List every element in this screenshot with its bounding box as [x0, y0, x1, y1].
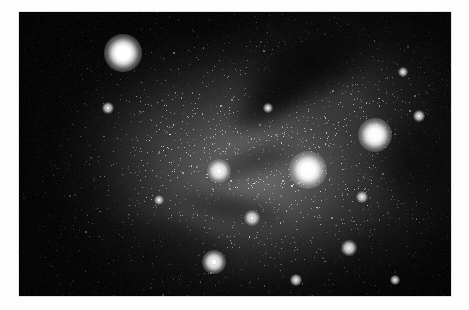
bright-star-core	[372, 132, 377, 137]
astrophotograph	[19, 12, 451, 296]
bright-star-core	[217, 169, 221, 173]
bright-star-core	[305, 167, 311, 173]
page-root	[0, 0, 469, 310]
bright-star-core	[267, 107, 269, 109]
bright-star-core	[402, 71, 404, 73]
sky-background	[19, 12, 451, 296]
bright-star-core	[418, 115, 420, 117]
bright-star-core	[120, 50, 126, 56]
bright-star-core	[394, 279, 396, 281]
bright-star-core	[295, 279, 297, 281]
bright-star-core	[361, 196, 363, 198]
bright-star-core	[212, 260, 216, 264]
bright-star-core	[158, 199, 160, 201]
bright-star-core	[107, 107, 109, 109]
